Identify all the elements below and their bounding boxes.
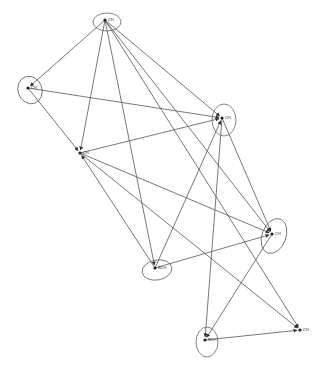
node-halo-ellipse	[140, 258, 173, 283]
node-n8[interactable]: CH	[298, 327, 308, 332]
edge-n2-n4	[28, 88, 78, 151]
node-halo-ellipse	[212, 104, 236, 136]
node-marker-icon	[270, 232, 273, 235]
edge-n4-n5	[80, 153, 269, 233]
node-n7[interactable]: BCH	[196, 327, 218, 357]
edge-n6-n3	[155, 121, 221, 268]
node-marker-icon	[220, 116, 223, 119]
edge-n4-n3	[80, 119, 219, 153]
edge-n1-n5	[105, 20, 270, 232]
edge-n1-n4	[81, 20, 105, 150]
node-marker-icon	[153, 266, 156, 269]
node-n4[interactable]: CH	[78, 150, 88, 155]
network-diagram: CHCHCHCHCHBCHBCHCH	[0, 0, 323, 366]
edge-n3-n5	[222, 118, 271, 231]
node-label: CH	[108, 17, 114, 22]
edge-n1-n3	[105, 20, 220, 116]
edge-n1-n2	[30, 20, 105, 86]
edge-n1-n6	[105, 20, 154, 265]
node-label: CH	[83, 150, 89, 155]
node-marker-icon	[78, 151, 81, 154]
node-marker-icon	[26, 86, 29, 89]
node-label: CH	[303, 327, 309, 332]
node-label: CH	[31, 85, 37, 90]
node-marker-icon	[103, 18, 106, 21]
edge-n1-n8	[105, 20, 298, 327]
edge-n4-n8	[80, 153, 298, 328]
node-marker-icon	[298, 328, 301, 331]
edge-n5-n7	[207, 234, 272, 337]
edge-layer	[28, 20, 298, 340]
node-marker-icon	[203, 338, 206, 341]
node-label: BCH	[158, 265, 166, 270]
node-n3[interactable]: CH	[212, 104, 236, 136]
node-label: CH	[225, 115, 231, 120]
node-layer: CHCHCHCHCHBCHBCHCH	[14, 13, 309, 357]
edge-n7-n8	[205, 330, 297, 340]
node-n6[interactable]: BCH	[140, 258, 173, 283]
node-halo-ellipse	[196, 327, 218, 357]
node-label: BCH	[208, 337, 216, 342]
node-label: CH	[275, 231, 281, 236]
